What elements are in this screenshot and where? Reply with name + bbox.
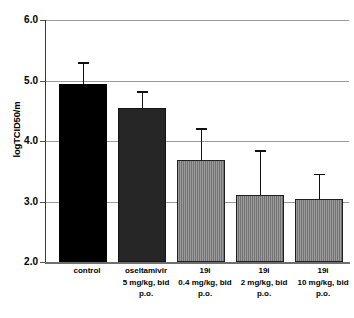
errorbar-stem-19i-2 — [260, 150, 262, 195]
y-tick-label: 3.0 — [8, 197, 38, 207]
bar-control — [59, 84, 107, 263]
x-label-line: 10 mg/kg, bid — [277, 277, 354, 289]
x-axis-labels: control oseltamivir 5 mg/kg, bid p.o. 19… — [45, 265, 348, 318]
errorbar-stem-19i-04 — [201, 128, 203, 160]
errorbar-stem-19i-10 — [319, 174, 321, 199]
bar-oseltamivir — [118, 108, 166, 262]
errorbar-cap-19i-2 — [255, 150, 266, 152]
errorbar-cap-19i-10 — [314, 174, 325, 176]
errorbar-cap-control — [78, 62, 89, 64]
bar-19i-2 — [236, 195, 284, 262]
errorbar-cap-oseltamivir — [137, 91, 148, 93]
bar-19i-10 — [295, 199, 343, 262]
bar-chart-figure: logTCID50/m 6.0 5.0 4.0 3.0 2.0 — [0, 0, 354, 318]
y-tick-label: 6.0 — [8, 15, 38, 25]
x-label-line: p.o. — [277, 288, 354, 300]
y-axis-tick-labels: 6.0 5.0 4.0 3.0 2.0 — [8, 0, 38, 318]
x-label-line: 19i — [277, 265, 354, 277]
y-tick-label: 5.0 — [8, 76, 38, 86]
errorbar-stem-oseltamivir — [142, 91, 144, 107]
y-tick-label: 2.0 — [8, 257, 38, 267]
y-tick-label: 4.0 — [8, 136, 38, 146]
x-label-19i-10: 19i 10 mg/kg, bid p.o. — [277, 265, 354, 300]
errorbar-cap-19i-04 — [196, 128, 207, 130]
bar-19i-04 — [177, 160, 225, 262]
errorbar-stem-control — [83, 62, 85, 84]
